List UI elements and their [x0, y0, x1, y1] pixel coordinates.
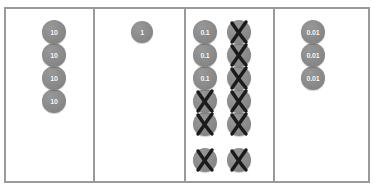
cross-out-icon [224, 63, 254, 93]
cross-out-icon [190, 109, 220, 139]
counter-disc[interactable]: 0.01 [301, 66, 325, 90]
place-value-column-ones: 1 [95, 9, 186, 181]
place-value-chart: 10101010 1 0.10.10.10.10.1 0.10.10.10.10… [4, 7, 370, 183]
counter-disc-label: 10 [50, 98, 57, 105]
counter-disc[interactable]: 0.01 [301, 20, 325, 44]
counter-disc-crossed[interactable]: 0.1 [193, 89, 217, 113]
counter-disc-label: 0.01 [307, 52, 320, 59]
place-value-column-tens: 10101010 [6, 9, 95, 181]
cross-out-icon [224, 86, 254, 116]
cross-out-icon [224, 17, 254, 47]
counter-disc-crossed[interactable]: 0.1 [193, 148, 217, 172]
counter-disc[interactable]: 10 [42, 43, 66, 67]
counter-disc-label: 10 [50, 75, 57, 82]
counter-disc[interactable]: 1 [131, 21, 153, 43]
counter-disc[interactable]: 0.1 [193, 20, 217, 44]
counter-disc-label: 10 [50, 29, 57, 36]
place-value-column-hundredths: 0.010.010.01 [275, 9, 368, 181]
counter-disc-crossed[interactable]: 0.1 [227, 20, 251, 44]
counter-disc-crossed[interactable]: 0.1 [227, 66, 251, 90]
counter-disc[interactable]: 10 [42, 89, 66, 113]
counter-disc-crossed[interactable]: 0.1 [227, 112, 251, 136]
cross-out-icon [190, 86, 220, 116]
counter-disc[interactable]: 0.1 [193, 66, 217, 90]
counter-disc-label: 1 [140, 29, 144, 36]
counter-disc-label: 0.1 [200, 75, 209, 82]
counter-disc-label: 0.1 [200, 52, 209, 59]
counter-disc-label: 0.1 [200, 29, 209, 36]
cross-out-icon [224, 145, 254, 175]
counter-disc-crossed[interactable]: 0.1 [227, 43, 251, 67]
counter-disc-label: 0.01 [307, 75, 320, 82]
cross-out-icon [190, 145, 220, 175]
counter-disc[interactable]: 10 [42, 66, 66, 90]
counter-disc-label: 0.01 [307, 29, 320, 36]
counter-disc-crossed[interactable]: 0.1 [227, 89, 251, 113]
counter-disc[interactable]: 0.01 [301, 43, 325, 67]
counter-disc-crossed[interactable]: 0.1 [193, 112, 217, 136]
counter-disc[interactable]: 0.1 [193, 43, 217, 67]
counter-disc-crossed[interactable]: 0.1 [227, 148, 251, 172]
counter-disc[interactable]: 10 [42, 20, 66, 44]
cross-out-icon [224, 40, 254, 70]
cross-out-icon [224, 109, 254, 139]
counter-disc-label: 10 [50, 52, 57, 59]
place-value-column-tenths: 0.10.10.10.10.1 0.10.10.10.10.1 0.1 0.1 [186, 9, 275, 181]
